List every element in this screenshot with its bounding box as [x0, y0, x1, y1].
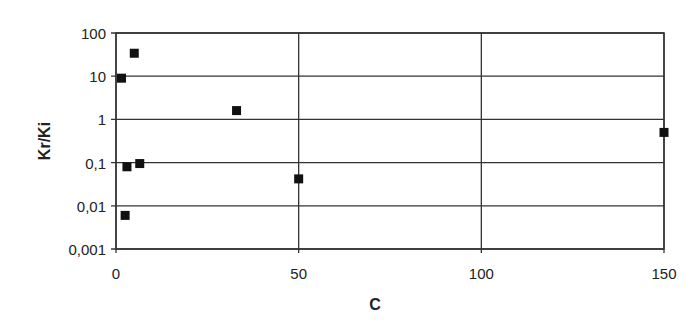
- y-tick-label: 10: [89, 68, 106, 85]
- scatter-chart: 0,0010,010,1110100 050100150 C Kr/Ki: [0, 0, 700, 332]
- x-axis-ticks: 050100150: [112, 265, 677, 282]
- data-point-marker: [130, 49, 139, 58]
- data-point-marker: [117, 74, 126, 83]
- y-axis-ticks: 0,0010,010,1110100: [68, 25, 106, 258]
- data-points: [117, 49, 669, 220]
- y-tick-label: 0,01: [77, 198, 106, 215]
- y-tick-label: 100: [81, 25, 106, 42]
- data-point-marker: [135, 159, 144, 168]
- plot-area: [116, 33, 664, 249]
- x-tick-label: 150: [651, 265, 676, 282]
- data-point-marker: [122, 162, 131, 171]
- x-tick-label: 50: [290, 265, 307, 282]
- x-tick-label: 0: [112, 265, 120, 282]
- y-tick-label: 1: [98, 111, 106, 128]
- grid-lines: [111, 33, 664, 253]
- y-tick-label: 0,1: [85, 155, 106, 172]
- x-axis-label: C: [369, 296, 381, 313]
- data-point-marker: [232, 106, 241, 115]
- y-axis-label: Kr/Ki: [36, 122, 53, 160]
- data-point-marker: [660, 128, 669, 137]
- y-tick-label: 0,001: [68, 241, 106, 258]
- x-tick-label: 100: [469, 265, 494, 282]
- data-point-marker: [294, 174, 303, 183]
- data-point-marker: [121, 211, 130, 220]
